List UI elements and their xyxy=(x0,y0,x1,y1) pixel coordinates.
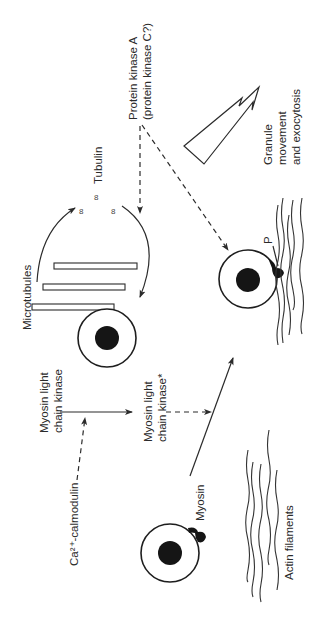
microtubules-text: Microtubules xyxy=(21,265,33,330)
exocytosis-text: and exocytosis xyxy=(290,89,302,165)
tubulin-dimer-icon: 8 xyxy=(94,193,99,202)
cell-phosphorylated xyxy=(219,250,284,308)
depolymerization-arrow xyxy=(122,206,149,297)
myosin-to-actin-arrow xyxy=(190,358,233,476)
ca-calmodulin-text: Ca²⁺-calmodulin xyxy=(68,483,80,566)
mlck-line1-text: Myosin light xyxy=(38,371,50,433)
polymerization-arrow xyxy=(37,208,75,282)
granule-text: Granule xyxy=(262,124,274,165)
nucleus-icon xyxy=(95,326,119,350)
actin-filaments-label: Actin filaments xyxy=(283,505,295,580)
mlck-active-line1-text: Myosin light xyxy=(142,380,154,442)
protein-kinase-c-text: (protein kinase C?) xyxy=(141,23,153,120)
actin-filaments-text: Actin filaments xyxy=(283,505,295,580)
actin-filaments-bottom xyxy=(246,430,279,602)
secretion-mechanism-diagram: Protein kinase A (protein kinase C?) Gra… xyxy=(0,0,317,623)
nucleus-icon xyxy=(158,541,182,565)
protein-kinase-a-text: Protein kinase A xyxy=(127,37,139,120)
cell-microtubule xyxy=(78,309,136,367)
protein-kinase-label: Protein kinase A (protein kinase C?) xyxy=(127,23,153,120)
mlck-label: Myosin light chain kinase xyxy=(38,369,64,433)
myosin-label: Myosin xyxy=(194,485,206,521)
myosin-text: Myosin xyxy=(194,485,206,521)
tubulin-dimer-icon: 8 xyxy=(111,207,116,216)
tubulin-label: Tubulin xyxy=(92,147,104,184)
mlck-active-label: Myosin light chain kinase* xyxy=(142,373,168,442)
microtubules-label: Microtubules xyxy=(21,265,33,330)
tubulin-dimers: 8 8 8 xyxy=(79,193,116,216)
mlck-active-line2-text: chain kinase* xyxy=(156,373,168,442)
granule-movement-arrow-icon xyxy=(184,87,259,164)
cell-myosin xyxy=(141,524,206,582)
microtubule-bar xyxy=(43,284,125,290)
ca-calmodulin-label: Ca²⁺-calmodulin xyxy=(68,483,80,566)
granule-movement-label: Granule movement and exocytosis xyxy=(262,89,302,165)
movement-text: movement xyxy=(276,111,288,165)
phosphate-label: P xyxy=(262,236,274,244)
tubulin-dimer-icon: 8 xyxy=(79,207,84,216)
calmodulin-arrow xyxy=(77,418,85,480)
mlck-line2-text: chain kinase xyxy=(52,369,64,433)
microtubule-bar xyxy=(54,263,137,269)
tubulin-text: Tubulin xyxy=(92,147,104,184)
nucleus-icon xyxy=(236,268,260,292)
